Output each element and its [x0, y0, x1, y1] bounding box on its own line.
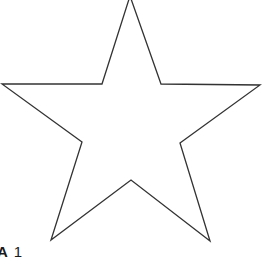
- figure-label-letter: A: [0, 243, 8, 260]
- figure-label: A1: [0, 243, 22, 260]
- star-outline: [2, 0, 260, 241]
- star-icon: [0, 0, 271, 263]
- star-figure: [0, 0, 271, 263]
- figure-label-number: 1: [14, 243, 22, 260]
